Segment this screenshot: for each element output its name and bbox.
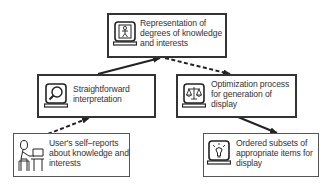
node-interpretation: Straightforward interpretation <box>37 74 156 118</box>
edge-interpretation-to-representation <box>98 58 160 74</box>
magnifier-monitor-icon <box>44 83 68 111</box>
person-on-monitor-icon <box>113 21 137 49</box>
user-at-computer-icon <box>17 139 45 173</box>
node-optimization: Optimization process for generation of d… <box>176 74 297 118</box>
node-label: Optimization process for generation of d… <box>211 79 289 110</box>
lightbulb-monitor-icon <box>207 140 231 168</box>
edge-representation-to-optimization <box>165 58 230 74</box>
edge-optimization-to-ordered-subsets <box>238 117 277 133</box>
edge-self-reports-to-interpretation <box>48 118 89 134</box>
node-label: User's self–reports about knowledge and … <box>49 138 129 169</box>
node-self-reports: User's self–reports about knowledge and … <box>13 133 130 177</box>
scales-monitor-icon <box>182 83 206 111</box>
node-ordered-subsets: Ordered subsets of appropriate items for… <box>203 133 319 177</box>
node-representation: Representation of degrees of knowledge a… <box>107 13 227 58</box>
node-label: Ordered subsets of appropriate items for… <box>236 138 313 169</box>
node-label: Straightforward interpretation <box>73 84 130 104</box>
node-label: Representation of degrees of knowledge a… <box>140 18 222 49</box>
